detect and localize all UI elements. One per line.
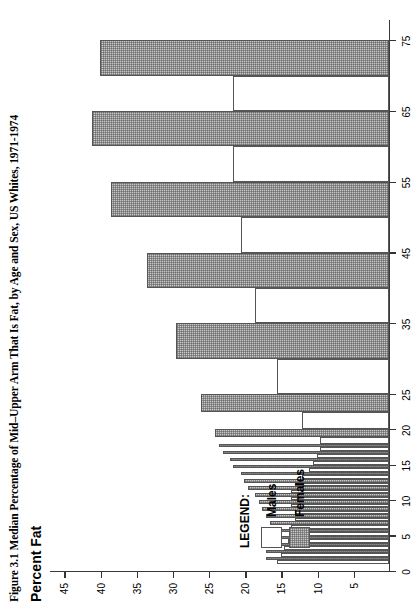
age-tick-label: 45 [401,248,412,259]
females-swatch-icon [289,527,310,548]
value-axis-title: Percent Fat [28,526,44,602]
percent-fat-tick [318,572,319,578]
percent-fat-tick-label: 5 [348,583,359,589]
age-tick [390,323,396,324]
bar-female [176,323,389,358]
percent-fat-tick [101,572,102,578]
bar-female [92,111,389,146]
figure-stage: Figure 3.1 Median Percentage of Mid–Uppe… [0,0,414,608]
bar-female [111,182,390,217]
age-tick-label: 35 [401,319,412,330]
percent-fat-tick [354,572,355,578]
percent-fat-tick [245,572,246,578]
age-tick [390,182,396,183]
bar-male [277,359,389,394]
legend-label-males: Males [265,484,279,517]
figure-caption: Figure 3.1 Median Percentage of Mid–Uppe… [8,115,20,602]
age-tick-label: 65 [401,106,412,117]
percent-fat-tick-label: 40 [95,583,106,594]
bar-male [320,447,389,451]
percent-fat-tick-label: 20 [240,583,251,594]
bar-male [277,560,389,564]
age-tick-label: 15 [401,460,412,471]
age-tick [390,465,396,466]
percent-fat-tick [64,572,65,578]
bar-female [266,557,389,561]
bar-female [266,550,389,554]
age-tick-label: 0 [401,569,412,575]
percent-fat-tick [137,572,138,578]
bar-female [147,253,389,288]
age-tick [390,500,396,501]
bars-container [50,20,389,571]
bar-female [201,394,389,412]
age-tick [390,40,396,41]
percent-fat-tick-label: 30 [167,583,178,594]
bar-male [241,217,389,252]
plot-area: 05101520253545556575 51015202530354045 [50,20,390,572]
plot-frame [50,20,390,572]
age-tick-label: 55 [401,177,412,188]
percent-fat-tick-label: 15 [276,583,287,594]
bar-female [100,40,389,75]
bar-male [320,437,389,444]
legend-item-males: Males [261,428,282,548]
age-tick-label: 20 [401,425,412,436]
age-tick [390,252,396,253]
age-tick-label: 75 [401,36,412,47]
legend-label-females: Females [293,469,307,517]
percent-fat-tick-label: 35 [131,583,142,594]
percent-fat-tick-label: 25 [204,583,215,594]
age-tick [390,571,396,572]
percent-fat-tick [281,572,282,578]
percent-fat-tick [173,572,174,578]
males-swatch-icon [261,527,282,548]
percent-fat-tick [209,572,210,578]
age-tick [390,535,396,536]
age-tick [390,394,396,395]
age-tick [390,429,396,430]
bar-male [281,553,390,557]
bar-male [302,412,389,430]
age-tick [390,111,396,112]
legend-item-females: Females [289,428,310,548]
bar-male [233,146,389,181]
percent-fat-tick-label: 45 [59,583,70,594]
bar-male [233,76,389,111]
legend: LEGEND: Males Females [238,428,330,548]
age-tick-label: 5 [401,534,412,540]
age-tick-label: 10 [401,496,412,507]
legend-title: LEGEND: [238,428,252,548]
bar-male [255,288,389,323]
age-tick-label: 25 [401,390,412,401]
percent-fat-tick-label: 10 [312,583,323,594]
